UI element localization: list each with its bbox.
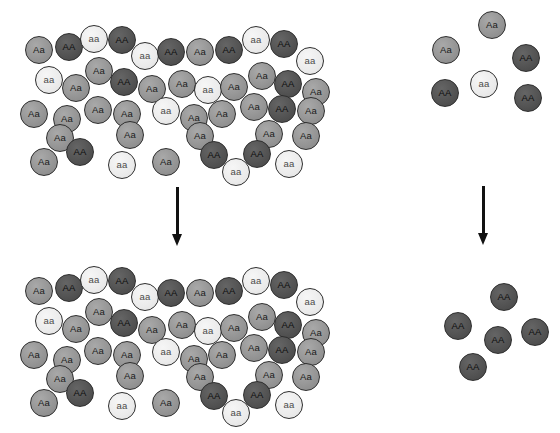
- arrow-shaft: [176, 187, 179, 235]
- genotype-circle-aa: Aa: [62, 315, 90, 343]
- genotype-circle-aa: AA: [514, 84, 542, 112]
- genotype-circle-aa: AA: [431, 79, 459, 107]
- genotype-circle-aa: aa: [131, 42, 159, 70]
- genotype-circle-aa: AA: [110, 309, 138, 337]
- genotype-circle-aa: aa: [242, 267, 270, 295]
- arrow-shaft: [482, 186, 485, 234]
- genotype-circle-aa: Aa: [30, 148, 58, 176]
- genotype-circle-aa: Aa: [152, 148, 180, 176]
- genotype-circle-aa: aa: [80, 25, 108, 53]
- genotype-circle-aa: Aa: [30, 389, 58, 417]
- genotype-circle-aa: AA: [215, 277, 243, 305]
- genotype-circle-aa: Aa: [85, 57, 113, 85]
- arrow-head: [172, 234, 182, 246]
- genotype-circle-aa: AA: [268, 95, 296, 123]
- genotype-circle-aa: Aa: [297, 97, 325, 125]
- genotype-circle-aa: Aa: [20, 100, 48, 128]
- genotype-circle-aa: aa: [222, 399, 250, 427]
- genotype-circle-aa: Aa: [292, 122, 320, 150]
- genotype-circle-aa: aa: [108, 392, 136, 420]
- genotype-circle-aa: AA: [215, 36, 243, 64]
- genotype-circle-aa: AA: [157, 279, 185, 307]
- genotype-circle-aa: AA: [66, 138, 94, 166]
- genotype-circle-aa: Aa: [152, 389, 180, 417]
- genotype-circle-aa: Aa: [208, 100, 236, 128]
- genotype-circle-aa: aa: [131, 283, 159, 311]
- genotype-circle-aa: AA: [512, 44, 540, 72]
- genotype-circle-aa: Aa: [186, 279, 214, 307]
- genotype-circle-aa: Aa: [62, 74, 90, 102]
- genotype-circle-aa: Aa: [84, 337, 112, 365]
- genotype-circle-aa: AA: [55, 33, 83, 61]
- genotype-circle-aa: AA: [268, 336, 296, 364]
- genotype-circle-aa: Aa: [168, 70, 196, 98]
- genotype-circle-aa: Aa: [85, 298, 113, 326]
- genotype-circle-aa: Aa: [116, 362, 144, 390]
- genotype-circle-aa: Aa: [208, 341, 236, 369]
- genotype-circle-aa: AA: [490, 283, 518, 311]
- genotype-circle-aa: Aa: [240, 334, 268, 362]
- genotype-circle-aa: Aa: [248, 303, 276, 331]
- genotype-circle-aa: aa: [152, 97, 180, 125]
- genotype-circle-aa: AA: [484, 326, 512, 354]
- genotype-circle-aa: Aa: [84, 96, 112, 124]
- genotype-circle-aa: Aa: [186, 38, 214, 66]
- genotype-circle-aa: aa: [222, 158, 250, 186]
- genotype-circle-aa: Aa: [297, 338, 325, 366]
- genotype-circle-aa: aa: [242, 26, 270, 54]
- genotype-circle-aa: Aa: [478, 11, 506, 39]
- genotype-circle-aa: aa: [108, 151, 136, 179]
- genotype-circle-aa: AA: [270, 271, 298, 299]
- genotype-circle-aa: Aa: [25, 36, 53, 64]
- genotype-circle-aa: aa: [296, 47, 324, 75]
- genotype-circle-aa: AA: [55, 274, 83, 302]
- genotype-circle-aa: AA: [270, 30, 298, 58]
- genotype-circle-aa: Aa: [240, 93, 268, 121]
- genotype-circle-aa: aa: [470, 70, 498, 98]
- genotype-circle-aa: aa: [152, 338, 180, 366]
- genotype-circle-aa: Aa: [25, 277, 53, 305]
- genotype-circle-aa: AA: [110, 68, 138, 96]
- genotype-circle-aa: AA: [459, 353, 487, 381]
- genotype-circle-aa: aa: [35, 66, 63, 94]
- genotype-circle-aa: aa: [275, 150, 303, 178]
- genotype-circle-aa: AA: [274, 70, 302, 98]
- arrow-head: [478, 233, 488, 245]
- genotype-circle-aa: AA: [66, 379, 94, 407]
- genotype-circle-aa: Aa: [248, 62, 276, 90]
- genotype-circle-aa: Aa: [432, 36, 460, 64]
- genotype-circle-aa: AA: [521, 318, 549, 346]
- genotype-circle-aa: Aa: [20, 341, 48, 369]
- genotype-circle-aa: aa: [35, 307, 63, 335]
- genotype-circle-aa: AA: [274, 311, 302, 339]
- genotype-circle-aa: Aa: [116, 121, 144, 149]
- genotype-circle-aa: aa: [275, 391, 303, 419]
- genotype-circle-aa: Aa: [292, 363, 320, 391]
- genotype-circle-aa: aa: [296, 288, 324, 316]
- genotype-circle-aa: Aa: [168, 311, 196, 339]
- genotype-circle-aa: AA: [444, 312, 472, 340]
- diagram-canvas: AaAAaaAAaaAAAaAAaaAAaaAaaaAaAAAaAaaaAaAa…: [0, 0, 560, 433]
- genotype-circle-aa: AA: [157, 38, 185, 66]
- genotype-circle-aa: aa: [80, 266, 108, 294]
